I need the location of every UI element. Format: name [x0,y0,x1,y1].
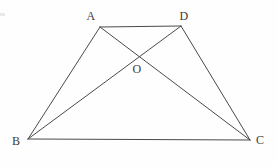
vertex-label-B: B [12,135,20,147]
segment-BD-diagonal [28,26,181,139]
vertex-label-A: A [87,10,96,22]
segment-AC-diagonal [100,27,250,140]
vertex-label-D: D [180,10,189,22]
figure-canvas [0,0,277,166]
segment-AB [28,27,100,139]
segment-AD [100,26,181,27]
segment-BC [28,139,250,140]
segment-DC [181,26,250,140]
vertex-label-C: C [256,134,264,146]
geometry-figure: A D B C O [0,0,277,166]
vertex-label-O: O [133,63,142,75]
